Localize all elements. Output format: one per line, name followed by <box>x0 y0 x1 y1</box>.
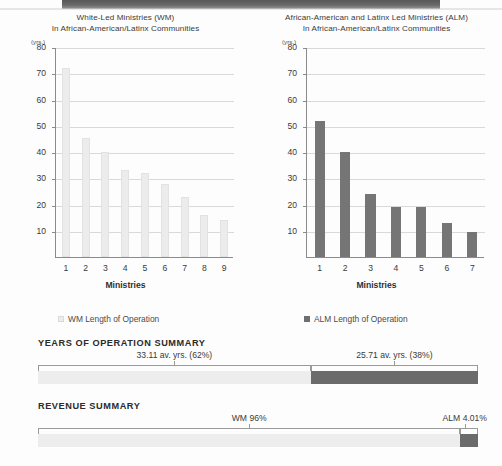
chart-alm-xtick-label: 1 <box>310 264 330 273</box>
chart-alm-ytick-label: 80 <box>277 43 297 52</box>
chart-alm-ytick-label: 60 <box>277 96 297 105</box>
chart-alm-title: African-American and Latinx Led Ministri… <box>251 12 502 34</box>
chart-alm-ytick <box>303 179 307 180</box>
revenue-bar-segment-wm <box>38 434 460 447</box>
chart-alm-gridline <box>307 74 485 75</box>
years-summary-left-value: 33.11 av. yrs. (62%) <box>137 350 213 360</box>
chart-alm-bar <box>365 194 375 257</box>
revenue-bracket-stem-alm <box>465 424 466 429</box>
chart-alm-legend-label: ALM Length of Operation <box>314 314 408 324</box>
chart-alm-ytick <box>303 232 307 233</box>
years-bar-segment-wm <box>38 371 311 384</box>
chart-wm: White-Led Ministries (WM) In African-Ame… <box>0 12 251 332</box>
chart-alm-ytick-label: 70 <box>277 69 297 78</box>
chart-wm-bar <box>181 197 189 257</box>
chart-wm-bar <box>200 215 208 257</box>
chart-alm-bar <box>416 207 426 257</box>
chart-alm-ytick <box>303 127 307 128</box>
chart-wm-ytick-label: 10 <box>26 227 46 236</box>
chart-wm-ytick-label: 40 <box>26 148 46 157</box>
chart-alm-ytick-label: 30 <box>277 174 297 183</box>
chart-alm-legend: ALM Length of Operation <box>304 314 408 324</box>
chart-wm-gridline <box>56 48 234 49</box>
chart-alm-ytick-label: 20 <box>277 201 297 210</box>
chart-wm-ytick-label: 50 <box>26 122 46 131</box>
legend-swatch-wm-icon <box>58 316 64 322</box>
chart-wm-xtick-label: 8 <box>194 264 214 273</box>
years-of-operation-summary: YEARS OF OPERATION SUMMARY 33.11 av. yrs… <box>38 338 478 384</box>
chart-wm-gridline <box>56 127 234 128</box>
chart-wm-bar <box>161 184 169 258</box>
chart-wm-plot-area: 1020304050607080123456789 <box>55 48 233 258</box>
chart-wm-ytick <box>52 206 56 207</box>
chart-wm-title-line1: White-Led Ministries (WM) <box>77 13 175 22</box>
chart-alm-xtick-label: 3 <box>361 264 381 273</box>
years-bracket-stem-wm <box>174 361 175 366</box>
years-bar-segment-alm <box>311 371 478 384</box>
chart-wm-ytick <box>52 153 56 154</box>
revenue-summary-left-value: WM 96% <box>232 413 267 423</box>
revenue-summary-right-value: ALM 4.01% <box>443 413 487 423</box>
chart-alm-gridline <box>307 127 485 128</box>
revenue-bar-segment-alm <box>460 434 478 447</box>
chart-wm-ytick-label: 60 <box>26 96 46 105</box>
scan-artifact-line <box>0 8 502 10</box>
chart-alm-bar <box>340 152 350 257</box>
chart-wm-xtick-label: 4 <box>115 264 135 273</box>
chart-alm: African-American and Latinx Led Ministri… <box>251 12 502 332</box>
chart-wm-ytick <box>52 179 56 180</box>
chart-alm-ytick <box>303 48 307 49</box>
chart-wm-bar <box>62 68 70 257</box>
chart-alm-ytick-label: 10 <box>277 227 297 236</box>
chart-alm-gridline <box>307 48 485 49</box>
chart-wm-legend-label: WM Length of Operation <box>68 314 159 324</box>
chart-wm-bar <box>141 173 149 257</box>
chart-alm-gridline <box>307 153 485 154</box>
chart-wm-ytick <box>52 127 56 128</box>
years-summary-right-value: 25.71 av. yrs. (38%) <box>356 350 432 360</box>
chart-wm-ytick-label: 30 <box>26 174 46 183</box>
revenue-summary: REVENUE SUMMARY WM 96% ALM 4.01% <box>38 401 478 447</box>
chart-alm-xtick-label: 5 <box>411 264 431 273</box>
chart-alm-xtick-label: 2 <box>335 264 355 273</box>
chart-wm-xtick-label: 9 <box>214 264 234 273</box>
chart-alm-bar <box>442 223 452 257</box>
chart-wm-ytick-label: 20 <box>26 201 46 210</box>
chart-wm-xtick-label: 7 <box>175 264 195 273</box>
chart-alm-gridline <box>307 179 485 180</box>
chart-wm-bar <box>82 138 90 257</box>
document-page: White-Led Ministries (WM) In African-Ame… <box>0 0 502 466</box>
chart-wm-bar <box>101 152 109 257</box>
chart-wm-title-line2: In African-American/Latinx Communities <box>6 23 245 34</box>
chart-alm-bar <box>467 232 477 257</box>
chart-wm-legend: WM Length of Operation <box>58 314 159 324</box>
chart-wm-ytick-label: 70 <box>26 69 46 78</box>
revenue-summary-values: WM 96% ALM 4.01% <box>38 413 478 427</box>
chart-alm-bar <box>315 121 325 258</box>
chart-wm-gridline <box>56 74 234 75</box>
chart-wm-xtick-label: 1 <box>56 264 76 273</box>
chart-alm-bar <box>391 207 401 257</box>
chart-alm-ytick <box>303 153 307 154</box>
chart-wm-ytick-label: 80 <box>26 43 46 52</box>
chart-alm-plot-area: 10203040506070801234567 <box>306 48 484 258</box>
chart-alm-ytick <box>303 74 307 75</box>
years-bracket-stem-alm <box>394 361 395 366</box>
years-summary-values: 33.11 av. yrs. (62%) 25.71 av. yrs. (38%… <box>38 350 478 364</box>
chart-wm-axis-title: Ministries <box>0 280 251 290</box>
chart-alm-title-line2: In African-American/Latinx Communities <box>257 23 496 34</box>
chart-wm-xtick-label: 5 <box>135 264 155 273</box>
chart-alm-xtick-label: 6 <box>437 264 457 273</box>
chart-wm-ytick <box>52 232 56 233</box>
chart-wm-bar <box>121 170 129 257</box>
chart-alm-ytick-label: 40 <box>277 148 297 157</box>
chart-alm-title-line1: African-American and Latinx Led Ministri… <box>285 13 468 22</box>
chart-wm-xtick-label: 6 <box>155 264 175 273</box>
chart-alm-ytick-label: 50 <box>277 122 297 131</box>
revenue-bracket-stem-wm <box>249 424 250 429</box>
charts-row: White-Led Ministries (WM) In African-Ame… <box>0 12 502 332</box>
chart-wm-xtick-label: 2 <box>76 264 96 273</box>
revenue-summary-heading: REVENUE SUMMARY <box>38 401 478 411</box>
chart-alm-axis-title: Ministries <box>251 280 502 290</box>
chart-wm-title: White-Led Ministries (WM) In African-Ame… <box>0 12 251 34</box>
